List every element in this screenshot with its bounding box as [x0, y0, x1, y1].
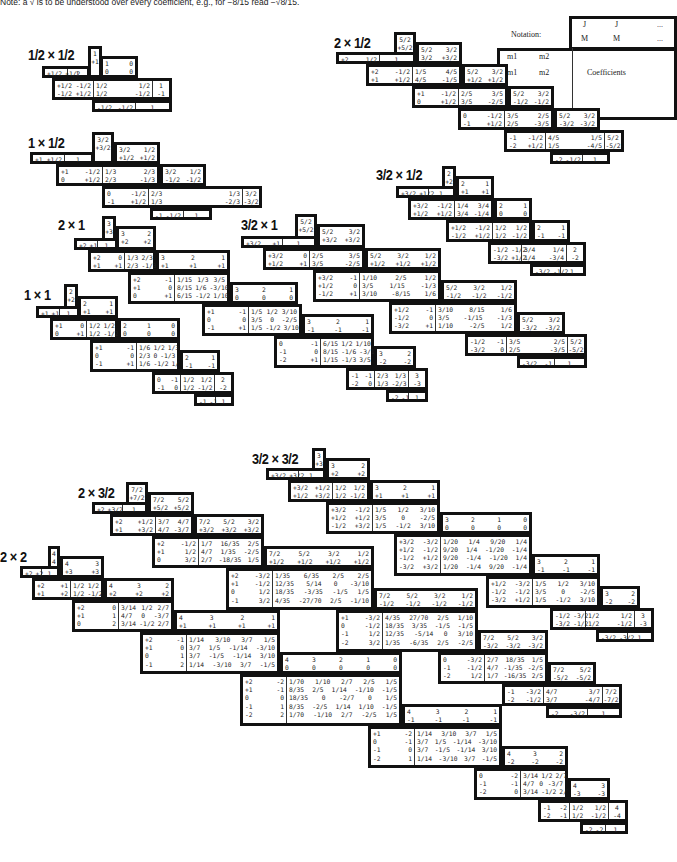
cell-value: -1/4	[474, 210, 489, 218]
cell-value: -2	[479, 788, 487, 796]
coefficient-subtable: 21+1+1	[78, 296, 118, 318]
cell-value: -2	[279, 356, 287, 364]
cell-value: +2	[231, 572, 239, 580]
cell-value: 0	[445, 524, 449, 532]
coefficient-values: 1	[561, 267, 583, 273]
cell-value: -1	[185, 362, 193, 370]
cell-value: 0	[523, 524, 527, 532]
J-M-header: 3/21/2+1/2+1/2	[117, 145, 157, 161]
cell-value: 1/5	[486, 730, 497, 738]
cell-value: -1/2	[394, 314, 409, 322]
m1-m2-column: +21/2	[339, 55, 380, 61]
cell-value: 5/2	[223, 518, 234, 526]
cell-value: -1	[507, 688, 515, 696]
cell-value: +2	[157, 540, 165, 548]
cell-value: -1/2	[85, 168, 100, 176]
cell-value: 9/20	[443, 554, 458, 562]
cell-value: -3/10	[256, 644, 275, 652]
cell-value: -1	[509, 134, 517, 142]
coefficient-subtable: 0-3/2-1-1/2-21/22/718/351/54/7-1/35-2/51…	[438, 652, 548, 684]
cell-value: 2/5	[395, 274, 406, 282]
m1-m2-column: -1/2-1/2-3/2+1/2	[491, 245, 522, 261]
cell-value: 3/5	[535, 588, 546, 596]
coefficient-subtable: +2-3/2+1-1/201/2-13/21/356/352/52/512/35…	[226, 568, 374, 610]
cell-value: 0	[523, 210, 527, 218]
cell-value: 1/14	[417, 730, 432, 738]
cell-value: -1	[349, 274, 357, 282]
cell-value: -1	[544, 360, 552, 368]
J-M-header: 4321-1-1-1-1	[405, 707, 499, 723]
cell-value: +3/2	[244, 526, 259, 534]
coefficient-subtable: 321+1+1+1	[370, 480, 440, 502]
cell-value: 3/5	[375, 514, 386, 522]
cell-value: -1	[537, 232, 545, 240]
cell-value: -2/5	[580, 588, 595, 596]
cell-value: 3/2	[165, 168, 176, 176]
cell-value: 3/10	[362, 290, 377, 298]
cell-value: 0	[157, 376, 161, 384]
cell-value: +1/2	[423, 554, 438, 562]
cell-value: 1/2	[595, 804, 606, 812]
cell-value: -1/2	[76, 82, 91, 90]
cell-value: 0	[373, 738, 377, 746]
cell-value: +2	[143, 238, 151, 246]
cell-value: 1/70	[289, 711, 304, 719]
coefficient-subtable: +2+11	[74, 238, 118, 250]
cell-value: +1/2	[138, 518, 153, 526]
cell-value: 1/15	[177, 276, 192, 284]
cell-value: 0	[471, 524, 475, 532]
cell-value: +3/2	[355, 522, 370, 530]
J-M-header: 7/25/23/2-3/2-3/2-3/2	[481, 633, 545, 649]
cell-value: 3/5	[214, 276, 225, 284]
cell-value: 1/2	[88, 582, 99, 590]
cell-value: +1/2	[370, 260, 385, 268]
cell-value: -6/35	[409, 639, 428, 647]
coefficient-values: 1/43/43/4-1/4	[455, 201, 491, 217]
cell-value: 1/6	[425, 290, 436, 298]
cell-value: 3	[161, 254, 165, 262]
cell-value: 5/2	[580, 666, 591, 674]
cell-value: 1/20	[443, 538, 458, 546]
cell-value: +1	[76, 330, 84, 338]
coefficient-values: 1	[628, 633, 651, 639]
cell-value: 1/5	[375, 506, 386, 514]
cell-value: 2	[537, 224, 541, 232]
J-M-header: 32-2-2	[377, 349, 413, 365]
cell-value: +1	[52, 310, 60, 318]
cell-value: 3/7	[589, 688, 600, 696]
cell-value: 3	[312, 656, 316, 664]
cell-value: 0	[368, 380, 372, 388]
cell-value: 1	[93, 50, 97, 58]
cell-value: -1	[157, 90, 165, 98]
cell-value: -1/5	[333, 588, 348, 596]
m1-m2-column: +2-2+1-100-11-22	[243, 677, 287, 723]
J-M-header: 43+3+3	[63, 559, 101, 575]
cell-value: 2	[280, 711, 284, 719]
cell-value: -3/2	[399, 563, 414, 571]
cell-value: -1/2	[399, 554, 414, 562]
cell-value: 1/2	[462, 592, 473, 600]
cell-value: +1	[35, 156, 43, 164]
cell-value: -1	[373, 746, 381, 754]
coefficient-subtable: 7/25/23/21/2+1/2+1/2+1/2+1/2	[264, 546, 374, 568]
cell-value: +1/2	[487, 120, 502, 128]
cell-value: 0	[341, 622, 345, 630]
cell-value: -2	[509, 142, 517, 150]
cell-value: -2	[596, 826, 604, 834]
cell-value: 1/5	[435, 738, 446, 746]
J-M-header: 32+2+2	[329, 461, 367, 477]
cell-value: 0	[312, 664, 316, 672]
cell-value: -1	[463, 120, 471, 128]
cell-value: 3/2	[185, 556, 196, 564]
coefficient-subtable: +3/20+1/2+12/53/53/5-2/5	[263, 248, 365, 270]
cell-value: +1	[349, 290, 357, 298]
cell-value: 1/5	[264, 636, 275, 644]
coefficient-values: 1/701/102/72/51/58/352/51/14-1/10-1/518/…	[287, 677, 399, 723]
cell-value: -1	[341, 630, 349, 638]
coefficient-values: 3/108/151/63/5-1/15-1/31/10-2/51/2	[436, 305, 514, 331]
cell-value: 2	[123, 322, 127, 330]
cell-value: +2	[93, 254, 101, 262]
cell-value: +2	[115, 518, 123, 526]
cell-value: 2/7	[341, 678, 352, 686]
coefficient-values: 1/21/21/2-1/2	[94, 81, 153, 97]
